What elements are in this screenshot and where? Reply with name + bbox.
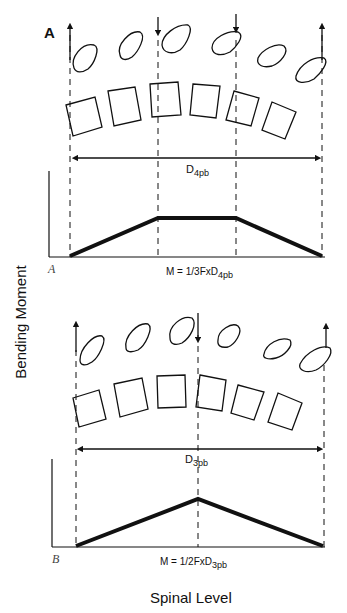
spinous-processes-a bbox=[73, 25, 326, 83]
force-lines-b bbox=[76, 335, 324, 547]
panel-label-a: A bbox=[44, 24, 55, 41]
vertebral-bodies-b bbox=[73, 375, 302, 430]
distance-label-b: D3pb bbox=[185, 453, 208, 468]
panel-sublabel-a: A bbox=[48, 262, 55, 277]
panel-a bbox=[49, 14, 326, 257]
y-axis-label: Bending Moment bbox=[12, 257, 32, 387]
vertebral-bodies-a bbox=[66, 82, 296, 139]
distance-label-a: D4pb bbox=[186, 163, 209, 178]
formula-b: M = 1/2FxD3pb bbox=[160, 556, 227, 570]
spinous-processes-b bbox=[80, 318, 331, 372]
force-arrows-a bbox=[70, 14, 322, 60]
spine-bending-diagram bbox=[0, 0, 347, 613]
formula-a: M = 1/3FxD4pb bbox=[166, 266, 233, 280]
moment-curve-a bbox=[70, 218, 322, 256]
force-lines-a bbox=[70, 35, 322, 257]
moment-axes-a bbox=[49, 171, 325, 257]
panel-sublabel-b: B bbox=[52, 552, 59, 567]
x-axis-label: Spinal Level bbox=[150, 589, 232, 606]
moment-curve-b bbox=[76, 499, 323, 546]
force-arrows-b bbox=[76, 313, 326, 352]
panel-b bbox=[52, 313, 331, 547]
